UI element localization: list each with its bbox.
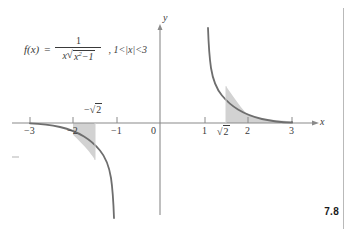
page-edge-rule	[343, 8, 344, 229]
tick-label-neg2: −2	[67, 125, 78, 136]
formula-denominator: x √ x2−1	[60, 48, 96, 63]
tick-label-neg-sqrt2: −√2	[84, 104, 102, 115]
radical-icon-sqrt2: √	[217, 126, 223, 137]
y-axis-arrow-icon	[158, 24, 163, 30]
formula-condition-text: 1<|x|<3	[113, 44, 146, 55]
curve-left-branch	[30, 123, 114, 218]
figure-number: 7.8	[324, 206, 339, 217]
curve-right-branch	[208, 28, 292, 123]
formula-radicand: x2−1	[73, 50, 95, 63]
sqrt2-radicand: 2	[223, 125, 230, 137]
formula-equals: =	[42, 43, 52, 55]
figure-container: f(x) = 1 x √ x2−1 , 1<|x|<3 x y 0 −3 −2 …	[0, 0, 352, 237]
radicand-tail: −1	[82, 51, 94, 62]
formula-function-name: f(x)	[24, 43, 39, 55]
formula-condition: , 1<|x|<3	[108, 44, 146, 55]
tick-label-3: 3	[289, 125, 294, 136]
formula-fraction: 1 x √ x2−1	[55, 36, 101, 63]
tick-label-2: 2	[245, 125, 250, 136]
formula-sqrt: √ x2−1	[67, 49, 95, 63]
formula-numerator: 1	[72, 36, 85, 47]
tick-label-neg3: −3	[24, 125, 35, 136]
y-axis-label: y	[163, 12, 167, 23]
origin-label: 0	[151, 125, 156, 136]
scan-artifact-mark	[12, 156, 19, 158]
x-axis-label: x	[320, 116, 324, 127]
function-formula: f(x) = 1 x √ x2−1 , 1<|x|<3	[24, 36, 147, 63]
neg-sqrt2-radicand: 2	[95, 103, 102, 115]
tick-label-neg1: −1	[111, 125, 122, 136]
tick-label-sqrt2: √2	[217, 126, 230, 137]
tick-label-1: 1	[202, 125, 207, 136]
x-axis-arrow-icon	[312, 120, 319, 125]
shaded-region-right-main	[226, 86, 248, 123]
